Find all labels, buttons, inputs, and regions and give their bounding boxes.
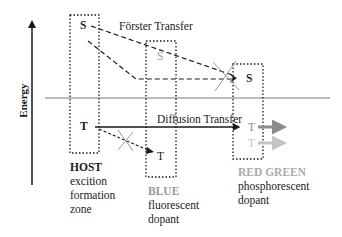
diffusion-transfer-label: Diffusion Transfer — [157, 113, 242, 126]
host-zone-line2: formation — [70, 189, 115, 202]
rg-singlet-label: S — [246, 72, 252, 85]
blue-triplet-label: T — [157, 150, 164, 163]
host-zone-line1: excition — [70, 175, 107, 188]
redgreen-zone-line2: dopant — [238, 194, 269, 207]
red-triplet-label: T — [248, 121, 255, 134]
blue-zone-line1: fluorescent — [148, 199, 199, 212]
blue-zone-title: BLUE — [148, 185, 179, 198]
host-zone-line3: zone — [70, 203, 92, 216]
redgreen-zone-line1: phosphorescent — [238, 180, 310, 193]
blocked-triplet-x-icon — [118, 130, 133, 151]
blue-zone-line2: dopant — [148, 213, 179, 226]
energy-axis-label: Energy — [17, 81, 30, 121]
blocked-transfer-x-icon — [213, 61, 239, 91]
host-singlet-label: S — [80, 19, 86, 32]
energy-transfer-diagram: Energy Förster Transfer Diffusion Transf… — [0, 0, 342, 237]
forster-transfer-label: Förster Transfer — [119, 20, 193, 33]
green-triplet-label: T — [248, 137, 255, 150]
host-triplet-label: T — [80, 120, 88, 133]
blue-singlet-label: S — [157, 50, 163, 63]
host-zone-title: HOST — [70, 161, 102, 174]
redgreen-zone-title: RED GREEN — [238, 166, 306, 179]
